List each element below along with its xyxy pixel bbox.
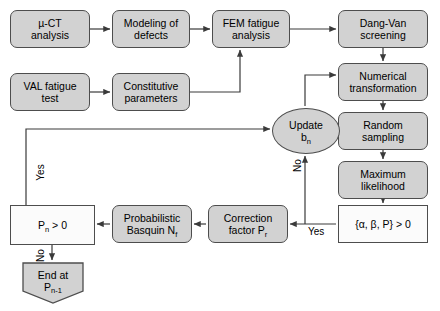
node-correction-factor-label: Correction factor Pr [222, 212, 274, 236]
edge-yes-feedback-to-update [26, 129, 270, 205]
node-modeling-of-defects-label: Modeling of defects [122, 17, 180, 41]
node-val-fatigue-test: VAL fatigue test [10, 73, 90, 111]
edge-label-yes-left: Yes [35, 164, 46, 180]
edge-constitutive-to-fem [190, 50, 240, 92]
node-correction-factor: Correction factor Pr [208, 205, 288, 243]
node-constitutive-parameters: Constitutive parameters [112, 73, 190, 111]
pn-subscript: n [45, 225, 49, 234]
correction-factor-subscript: r [265, 230, 268, 239]
basquin-subscript: f [175, 230, 177, 239]
end-subscript: n-1 [51, 286, 62, 295]
node-dang-van-screening: Dang-Van screening [338, 10, 428, 48]
node-val-fatigue-test-label: VAL fatigue test [21, 80, 78, 104]
edge-label-yes-right: Yes [308, 226, 324, 237]
node-random-sampling: Random sampling [338, 112, 428, 150]
flowchart-canvas: µ-CT analysis Modeling of defects FEM fa… [0, 0, 440, 311]
node-modeling-of-defects: Modeling of defects [112, 10, 190, 48]
node-update-bn-label: Update bn [287, 119, 325, 143]
node-maximum-likelihood: Maximum likelihood [338, 161, 428, 199]
node-numerical-transformation: Numerical transformation [338, 63, 428, 101]
node-end-at-pn-1-label: End at Pn-1 [36, 269, 70, 293]
edge-label-no-right: No [292, 159, 303, 172]
node-probabilistic-basquin-label: Probabilistic Basquin Nf [122, 212, 183, 236]
node-numerical-transformation-label: Numerical transformation [347, 70, 418, 94]
node-random-sampling-label: Random sampling [360, 119, 406, 143]
node-alpha-beta-p-decision-label: {α, β, P} > 0 [353, 218, 413, 230]
node-pn-decision-label: Pn > 0 [36, 219, 69, 231]
node-probabilistic-basquin: Probabilistic Basquin Nf [112, 205, 192, 243]
node-maximum-likelihood-label: Maximum likelihood [358, 168, 408, 192]
node-dang-van-screening-label: Dang-Van screening [358, 17, 409, 41]
update-subscript: n [307, 137, 311, 146]
node-update-bn: Update bn [272, 108, 340, 154]
node-alpha-beta-p-decision: {α, β, P} > 0 [338, 205, 428, 243]
node-fem-fatigue-analysis: FEM fatigue analysis [212, 10, 290, 48]
node-pn-decision: Pn > 0 [10, 205, 95, 245]
node-ct-analysis: µ-CT analysis [10, 10, 90, 48]
edge-update-to-numerical [305, 75, 336, 106]
edge-label-no-left: No [35, 249, 46, 262]
node-constitutive-parameters-label: Constitutive parameters [122, 80, 181, 104]
node-ct-analysis-label: µ-CT analysis [29, 17, 71, 41]
node-end-at-pn-1: End at Pn-1 [22, 262, 84, 304]
node-fem-fatigue-analysis-label: FEM fatigue analysis [221, 17, 282, 41]
